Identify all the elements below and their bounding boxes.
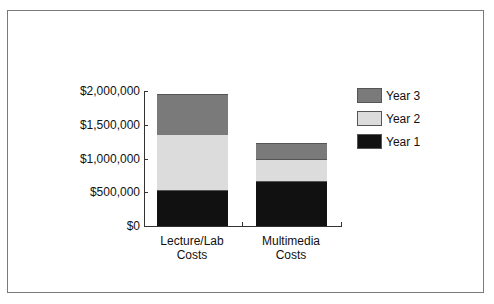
legend-label: Year 2 — [386, 112, 420, 126]
bar-segment-year-1 — [256, 181, 327, 226]
legend-label: Year 1 — [386, 135, 420, 149]
x-tick-label-line: Lecture/Lab — [142, 234, 242, 248]
bar-segment-year-3 — [256, 143, 327, 159]
y-tick-label: $1,500,000 — [80, 118, 140, 132]
x-tick-label: MultimediaCosts — [241, 234, 341, 262]
x-tick-label-line: Costs — [241, 248, 341, 262]
legend-label: Year 3 — [386, 89, 420, 103]
y-tick-label: $2,000,000 — [80, 84, 140, 98]
bar-segment-year-1 — [157, 190, 228, 226]
y-tick-label: $1,000,000 — [80, 152, 140, 166]
y-tick — [144, 192, 148, 193]
y-tick-label: $500,000 — [90, 185, 140, 199]
y-tick — [144, 91, 148, 92]
legend-swatch — [357, 111, 382, 126]
x-tick-label: Lecture/LabCosts — [142, 234, 242, 262]
y-tick — [144, 125, 148, 126]
x-tick — [341, 222, 342, 226]
x-tick-label-line: Costs — [142, 248, 242, 262]
bar-segment-year-2 — [256, 159, 327, 181]
bar-segment-year-2 — [157, 134, 228, 190]
y-tick — [144, 159, 148, 160]
y-tick-label: $0 — [127, 219, 140, 233]
legend-swatch — [357, 134, 382, 149]
x-axis-line — [144, 226, 342, 227]
x-tick — [242, 222, 243, 226]
bar-segment-year-3 — [157, 94, 228, 135]
x-tick-label-line: Multimedia — [241, 234, 341, 248]
legend-swatch — [357, 88, 382, 103]
